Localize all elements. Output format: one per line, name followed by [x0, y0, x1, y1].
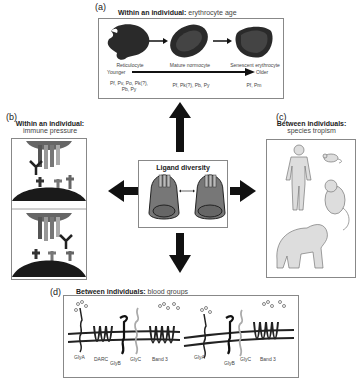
immune-pressure-illustration: [12, 139, 86, 279]
panel-c-title-bold: Between individuals:: [277, 120, 347, 127]
arrow-right-icon: [230, 180, 256, 202]
glyc-right-label: GlyC: [240, 356, 251, 362]
panel-d-title-bold: Between individuals:: [76, 288, 146, 295]
panel-b-title-bold: Within an individual:: [16, 120, 84, 127]
glya-left-label: GlyA: [74, 354, 85, 360]
band3-right-label: Band 3: [260, 356, 276, 362]
arrow-down-icon: [169, 233, 191, 273]
glyb-left-label: GlyB: [110, 360, 121, 366]
merozoite-left-icon: [149, 175, 179, 219]
merozoite-right-icon: [195, 175, 225, 219]
darc-label: DARC: [94, 356, 108, 362]
species-tropism-illustration: [267, 140, 355, 277]
merozoite-pair-illustration: [139, 161, 227, 227]
panel-d-box: GlyA DARC GlyB GlyC Band 3 GlyA GlyB Gly…: [63, 295, 299, 378]
blood-groups-illustration: [64, 296, 298, 377]
panel-c-title-sub: species tropism: [287, 127, 336, 134]
glya-left-icon: [80, 308, 82, 352]
panel-d-title-sub: blood groups: [146, 288, 188, 295]
glyb-right-icon: [226, 316, 233, 354]
panel-b-title: Within an individual: immune pressure: [0, 120, 100, 134]
ligand-diversity-box: Ligand diversity: [138, 160, 228, 228]
glyb-left-icon: [120, 316, 127, 354]
panel-b-title-sub: immune pressure: [23, 127, 77, 134]
monkey-icon: [325, 180, 349, 230]
glyc-left-label: GlyC: [130, 356, 141, 362]
arrow-left-icon: [108, 180, 138, 202]
panel-b-box: [11, 138, 87, 280]
glya-right-label: GlyA: [194, 354, 205, 360]
panel-c-box: [266, 139, 356, 278]
band3-left-label: Band 3: [152, 356, 168, 362]
gorilla-icon: [277, 225, 328, 268]
panel-d-title: Between individuals: blood groups: [76, 288, 188, 295]
antibody-icon: [30, 161, 42, 175]
arrow-up-icon: [169, 102, 191, 152]
panel-c-title: Between individuals: species tropism: [264, 120, 359, 134]
glyb-right-label: GlyB: [224, 360, 235, 366]
panel-d-letter: (d): [50, 287, 61, 297]
mouse-icon: [323, 154, 342, 163]
human-icon: [286, 145, 311, 210]
